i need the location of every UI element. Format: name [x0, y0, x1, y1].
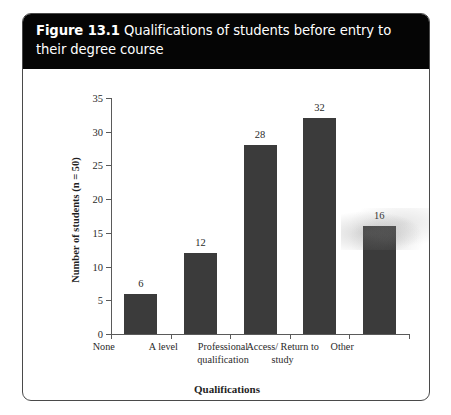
figure-container: Figure 13.1 Qualifications of students b… — [22, 13, 430, 401]
bar — [303, 118, 336, 334]
figure-title: Figure 13.1 Qualifications of students b… — [36, 21, 418, 59]
x-tick — [111, 334, 112, 339]
bar-value-label: 28 — [255, 129, 266, 140]
category-label: Other — [305, 340, 379, 353]
y-axis-line — [111, 98, 112, 334]
y-tick — [106, 199, 111, 200]
x-tick — [230, 334, 231, 339]
y-tick — [106, 165, 111, 166]
y-tick — [106, 233, 111, 234]
x-tick — [349, 334, 350, 339]
bar-value-label: 12 — [195, 237, 206, 248]
y-tick-label: 20 — [93, 194, 104, 205]
figure-title-bar: Figure 13.1 Qualifications of students b… — [22, 13, 430, 69]
x-tick — [171, 334, 172, 339]
y-tick-label: 10 — [93, 261, 104, 272]
y-tick-label: 25 — [93, 160, 104, 171]
bar — [124, 294, 157, 334]
x-axis-title: Qualifications — [23, 383, 430, 395]
x-axis-line — [111, 334, 409, 335]
y-tick — [106, 300, 111, 301]
chart-plot-area: Number of students (n = 50) 051015202530… — [23, 70, 430, 401]
x-tick — [290, 334, 291, 339]
y-tick — [106, 98, 111, 99]
y-tick-label: 35 — [93, 93, 104, 104]
figure-number: Figure 13.1 — [36, 23, 120, 38]
y-tick-label: 5 — [98, 295, 103, 306]
y-tick-label: 15 — [93, 227, 104, 238]
bar-value-label: 32 — [314, 102, 325, 113]
chart-axes: 05101520253035 612283216 NoneA levelProf… — [111, 98, 409, 334]
y-tick-label: 0 — [98, 329, 103, 340]
bar — [363, 226, 396, 334]
y-axis-title: Number of students (n = 50) — [70, 157, 81, 283]
bar-value-label: 16 — [374, 210, 385, 221]
bar — [184, 253, 217, 334]
y-tick — [106, 267, 111, 268]
y-tick-label: 30 — [93, 126, 104, 137]
y-tick — [106, 132, 111, 133]
bar — [244, 145, 277, 334]
bar-value-label: 6 — [138, 278, 143, 289]
x-tick — [409, 334, 410, 339]
